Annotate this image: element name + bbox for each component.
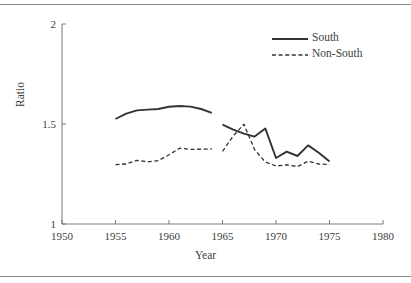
y-tick-label: 1 [51, 218, 57, 230]
series-line-non-south-seg1 [223, 124, 330, 166]
legend-swatches [272, 39, 308, 55]
x-tick-label: 1965 [212, 230, 234, 242]
x-tick-label: 1980 [372, 230, 394, 242]
x-tick-label: 1950 [51, 230, 73, 242]
y-tick-label: 1.5 [42, 118, 56, 130]
x-tick-label: 1955 [105, 230, 127, 242]
x-tick-label: 1975 [319, 230, 341, 242]
y-tick-label: 2 [51, 18, 57, 30]
legend-label-south: South [312, 31, 339, 43]
series-line-non-south-seg0 [116, 148, 212, 164]
data-series [116, 106, 330, 167]
x-tick-label: 1960 [158, 230, 180, 242]
x-axis-title: Year [0, 249, 411, 261]
x-tick-label: 1970 [265, 230, 287, 242]
series-line-south-seg0 [116, 106, 212, 119]
y-axis-title: Ratio [14, 82, 26, 107]
legend-label-non-south: Non-South [312, 47, 362, 59]
chart-figure: 195019551960196519701975198011.52 Ratio … [0, 0, 411, 283]
